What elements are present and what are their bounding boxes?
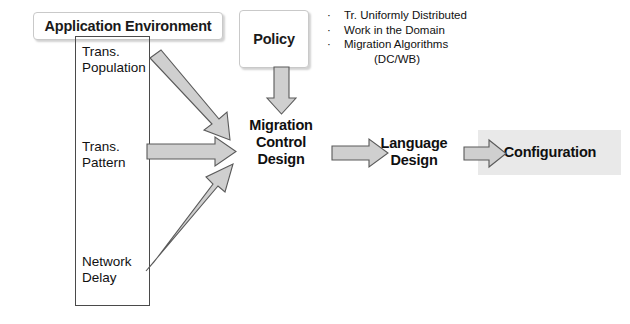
bullet-sub-note: (DC/WB) (322, 52, 522, 67)
arrow-trans-pattern-to-migration-icon (147, 137, 236, 166)
arrow-policy-to-migration-icon (267, 67, 296, 114)
bullet-marker-icon: · (327, 23, 331, 38)
factor-trans-population-line2: Population (82, 60, 146, 76)
policy-label: Policy (253, 31, 295, 47)
stage-language-line1: Language (371, 135, 457, 152)
bullet-item-label: Tr. Uniformly Distributed (344, 9, 467, 21)
bullet-item-label: Migration Algorithms (344, 38, 448, 50)
factor-trans-population-line1: Trans. (82, 44, 146, 60)
factor-trans-pattern: Trans. Pattern (82, 139, 126, 171)
bullet-item: · Migration Algorithms (322, 37, 522, 52)
stage-configuration: Configuration (487, 144, 613, 161)
bullet-item: · Tr. Uniformly Distributed (322, 8, 522, 23)
stage-language-line2: Design (371, 152, 457, 169)
policy-box: Policy (239, 10, 309, 68)
bullet-marker-icon: · (327, 8, 331, 23)
bullet-marker-icon: · (327, 37, 331, 52)
stage-migration-line1: Migration (237, 117, 325, 134)
bullet-item: · Work in the Domain (322, 23, 522, 38)
factor-trans-population: Trans. Population (82, 44, 146, 76)
factor-network-delay-line1: Network (82, 254, 132, 270)
arrow-network-delay-to-migration-icon (146, 164, 233, 271)
factor-network-delay-line2: Delay (82, 270, 132, 286)
factor-trans-pattern-line1: Trans. (82, 139, 126, 155)
notes-bullet-list: · Tr. Uniformly Distributed · Work in th… (322, 8, 522, 66)
stage-migration-control-design: Migration Control Design (237, 117, 325, 168)
stage-migration-line2: Control (237, 134, 325, 151)
factor-network-delay: Network Delay (82, 254, 132, 286)
bullet-item-label: Work in the Domain (344, 24, 445, 36)
application-environment-label: Application Environment (45, 18, 212, 34)
stage-configuration-label: Configuration (487, 144, 613, 161)
arrow-trans-population-to-migration-icon (150, 50, 230, 140)
stage-migration-line3: Design (237, 151, 325, 168)
factor-trans-pattern-line2: Pattern (82, 155, 126, 171)
diagram-canvas: Application Environment Policy Trans. Po… (0, 0, 630, 324)
stage-language-design: Language Design (371, 135, 457, 169)
